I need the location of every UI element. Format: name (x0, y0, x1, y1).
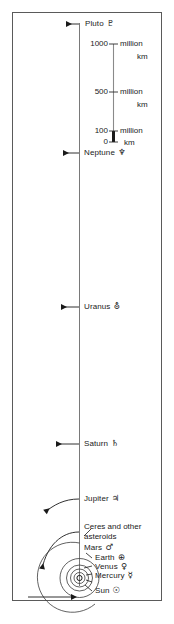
scale-unit-1000-million: million (120, 39, 143, 48)
scale-label-1000: 1000 (68, 39, 108, 48)
label-ceres-line1: Ceres and other (84, 522, 141, 532)
leader-sun (85, 585, 92, 591)
label-jupiter-name: Jupiter (84, 494, 109, 503)
scale-label-0: 0 (68, 137, 108, 146)
label-jupiter: Jupiter♃ (84, 494, 119, 503)
label-mercury: Mercury☿ (95, 571, 133, 580)
label-mars-name: Mars (84, 543, 102, 552)
jupiter-symbol: ♃ (109, 493, 120, 503)
label-uranus: Uranus⛢ (84, 302, 120, 311)
scale-unit-0-km: km (124, 138, 135, 147)
label-sun: Sun☉ (95, 586, 120, 595)
scale-label-500: 500 (68, 87, 108, 96)
label-earth-name: Earth (95, 553, 115, 562)
scale-unit-1000-km: km (137, 52, 148, 61)
leader-mercury (86, 580, 92, 582)
label-neptune-name: Neptune (84, 148, 115, 157)
pointer-ceres-asteroids (42, 532, 79, 569)
label-saturn-name: Saturn (84, 439, 108, 448)
pluto-symbol: ♇ (104, 18, 115, 28)
mars-symbol: ♂ (102, 542, 113, 552)
scale-unit-500-km: km (137, 100, 148, 109)
neptune-symbol: ♆ (115, 147, 126, 157)
label-neptune: Neptune♆ (84, 148, 126, 157)
label-ceres-asteroids: Ceres and other asteroids (84, 522, 141, 541)
label-saturn: Saturn♄ (84, 439, 119, 448)
solar-system-scale-diagram: Pluto♇ 1000 million km 500 million km 10… (0, 0, 174, 624)
scale-unit-100-million: million (120, 126, 143, 135)
label-uranus-name: Uranus (84, 302, 110, 311)
label-mercury-name: Mercury (95, 571, 125, 580)
scale-label-100: 100 (68, 126, 108, 135)
scale-unit-500-million: million (120, 87, 143, 96)
pointer-jupiter (45, 499, 79, 512)
label-mars: Mars♂ (84, 543, 113, 552)
saturn-symbol: ♄ (108, 438, 119, 448)
mercury-symbol: ☿ (125, 570, 133, 580)
label-pluto-name: Pluto (85, 19, 104, 28)
label-ceres-line2: asteroids (84, 532, 141, 542)
leader-mars (86, 553, 92, 558)
label-venus-name: Venus (95, 562, 118, 571)
uranus-symbol: ⛢ (110, 301, 119, 311)
leader-venus (86, 574, 92, 575)
label-sun-name: Sun (95, 586, 110, 595)
sun-symbol: ☉ (110, 585, 121, 595)
label-pluto: Pluto♇ (85, 19, 114, 28)
label-venus: Venus♀ (95, 562, 127, 571)
